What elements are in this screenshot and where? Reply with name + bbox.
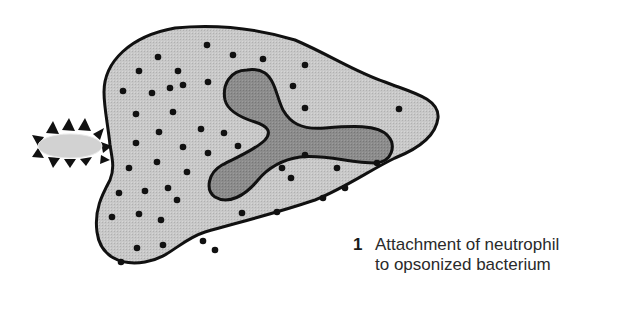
caption-line-1: 1Attachment of neutrophil — [353, 235, 559, 255]
step-number: 1 — [353, 235, 375, 255]
figure-caption: 1Attachment of neutrophil to opsonized b… — [353, 235, 559, 275]
bacterium-body — [38, 134, 102, 158]
caption-line-2: to opsonized bacterium — [353, 255, 559, 275]
opsonized-bacterium — [32, 118, 112, 168]
caption-text-1: Attachment of neutrophil — [375, 235, 559, 254]
